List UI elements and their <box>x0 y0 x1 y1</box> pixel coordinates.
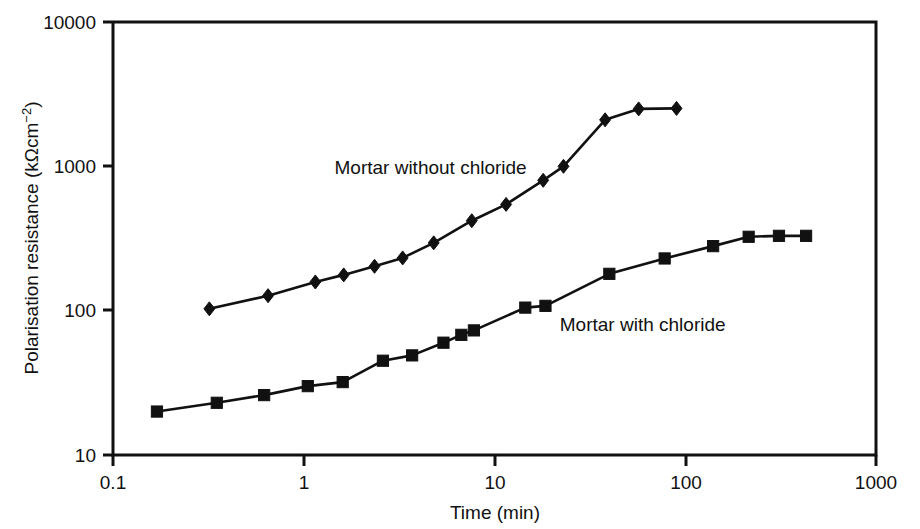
data-point-square <box>377 355 388 366</box>
x-tick-label-10: 10 <box>484 472 505 493</box>
data-point-diamond <box>633 102 644 116</box>
data-point-diamond <box>338 268 349 282</box>
plot-frame <box>113 22 876 455</box>
y-axis-title-main: Polarisation resistance (k <box>21 162 42 375</box>
data-point-square <box>540 300 551 311</box>
data-point-square <box>259 390 270 401</box>
data-point-diamond <box>369 259 380 273</box>
x-tick-label-0-1: 0.1 <box>100 472 126 493</box>
data-point-diamond <box>428 236 439 250</box>
y-axis-title: Polarisation resistance (kΩcm−2) <box>19 102 42 375</box>
data-point-square <box>520 302 531 313</box>
data-point-diamond <box>466 214 477 228</box>
data-point-square <box>659 253 670 264</box>
data-point-square <box>151 406 162 417</box>
y-tick-label-100: 100 <box>64 300 96 321</box>
data-point-square <box>800 230 811 241</box>
data-point-diamond <box>538 173 549 187</box>
data-point-diamond <box>263 289 274 303</box>
data-point-square <box>456 329 467 340</box>
y-tick-label-1000: 1000 <box>54 156 96 177</box>
data-point-square <box>604 268 615 279</box>
y-tick-label-10: 10 <box>75 445 96 466</box>
data-point-square <box>773 230 784 241</box>
data-point-square <box>743 231 754 242</box>
x-axis-ticks <box>113 455 876 466</box>
data-point-diamond <box>204 302 215 316</box>
data-point-square <box>302 381 313 392</box>
series-label-with-chloride: Mortar with chloride <box>560 314 726 335</box>
data-point-diamond <box>310 275 321 289</box>
x-tick-label-1: 1 <box>299 472 310 493</box>
x-axis-title: Time (min) <box>450 502 540 523</box>
data-series-layer <box>151 101 811 417</box>
data-point-diamond <box>501 197 512 211</box>
x-axis-tick-labels: 0.1 1 10 100 1000 <box>100 472 897 493</box>
data-point-square <box>337 376 348 387</box>
data-point-diamond <box>671 101 682 115</box>
data-point-square <box>438 337 449 348</box>
data-point-square <box>211 397 222 408</box>
series-label-without-chloride: Mortar without chloride <box>335 157 527 178</box>
x-tick-label-100: 100 <box>670 472 702 493</box>
data-point-square <box>468 325 479 336</box>
y-axis-tick-labels: 10000 1000 100 10 <box>43 12 96 466</box>
series-without-chloride <box>204 101 682 315</box>
y-axis-title-group: Polarisation resistance (kΩcm−2) <box>19 102 42 375</box>
data-point-diamond <box>397 251 408 265</box>
x-tick-label-1000: 1000 <box>855 472 897 493</box>
y-tick-label-10000: 10000 <box>43 12 96 33</box>
data-point-square <box>407 350 418 361</box>
polarisation-resistance-chart: Polarisation resistance (kΩcm−2) 10000 1… <box>0 0 920 529</box>
data-point-square <box>708 241 719 252</box>
